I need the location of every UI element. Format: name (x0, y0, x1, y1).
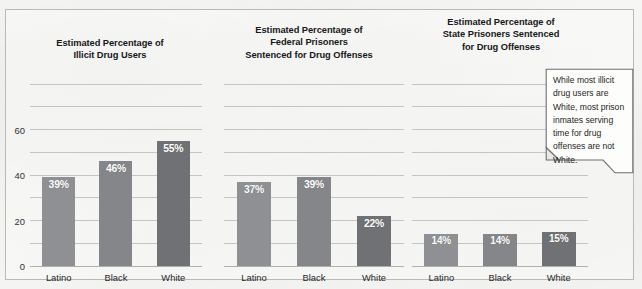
bar-slot: 39% Black (284, 84, 344, 266)
bar[interactable]: 22% White (357, 216, 391, 266)
bar[interactable]: 39% Latino (42, 177, 75, 266)
y-axis-tick-label: 40 (15, 170, 25, 181)
x-axis-tick-label: White (528, 272, 590, 283)
x-axis-tick-label: Black (85, 272, 146, 283)
y-axis-tick-label: 0 (20, 261, 25, 272)
bar[interactable]: 39% Black (297, 177, 331, 266)
bar[interactable]: 14% Black (483, 234, 517, 266)
bar[interactable]: 55% White (157, 141, 190, 266)
bar-slot: 14% Latino (412, 84, 471, 266)
chart-title: Estimated Percentage of Federal Prisoner… (214, 24, 404, 61)
bar-value-label: 22% (357, 218, 391, 229)
bar-value-label: 14% (483, 235, 517, 246)
bar[interactable]: 14% Latino (424, 234, 458, 266)
bar-slot: 55% White (145, 84, 202, 266)
bar-value-label: 15% (542, 233, 576, 244)
y-axis-tick-label: 20 (15, 215, 25, 226)
chart-title: Estimated Percentage of Illicit Drug Use… (12, 37, 208, 62)
bar-slot: 14% Black (471, 84, 530, 266)
plot-area: 37% Latino 39% Black 22% White (224, 84, 404, 266)
bar-series: 37% Latino 39% Black 22% White (224, 84, 404, 266)
x-axis-tick-label: White (343, 272, 405, 283)
bar-slot: 46% Black (87, 84, 144, 266)
bar-value-label: 39% (42, 179, 75, 190)
bar-value-label: 46% (99, 163, 132, 174)
bar-slot: 39% Latino (30, 84, 87, 266)
chart-panel-federal-prisoners: Estimated Percentage of Federal Prisoner… (214, 10, 404, 281)
x-axis-tick-label: White (143, 272, 204, 283)
bar[interactable]: 37% Latino (237, 182, 271, 266)
x-axis-tick-label: Latino (28, 272, 89, 283)
x-axis-tick-label: Black (469, 272, 531, 283)
x-axis-tick-label: Black (283, 272, 345, 283)
bar-value-label: 14% (424, 235, 458, 246)
bar-slot: 37% Latino (224, 84, 284, 266)
bar-value-label: 37% (237, 184, 271, 195)
chart-panel-illicit-drug-users: Estimated Percentage of Illicit Drug Use… (12, 10, 208, 281)
figure-frame: Estimated Percentage of Illicit Drug Use… (5, 9, 634, 280)
bar-slot: 22% White (344, 84, 404, 266)
bar-series: 39% Latino 46% Black 55% White (30, 84, 202, 266)
bar-value-label: 39% (297, 179, 331, 190)
bar[interactable]: 46% Black (99, 161, 132, 266)
callout-text: While most illicit drug users are White,… (553, 74, 629, 167)
bar-value-label: 55% (157, 143, 190, 154)
x-axis-tick-label: Latino (223, 272, 285, 283)
y-axis-tick-label: 60 (15, 124, 25, 135)
bar[interactable]: 15% White (542, 232, 576, 266)
chart-title: Estimated Percentage of State Prisoners … (406, 16, 596, 53)
x-axis-tick-label: Latino (410, 272, 472, 283)
callout-annotation: While most illicit drug users are White,… (545, 68, 634, 174)
plot-area: 0204060 39% Latino 46% Black 55% (30, 84, 202, 266)
